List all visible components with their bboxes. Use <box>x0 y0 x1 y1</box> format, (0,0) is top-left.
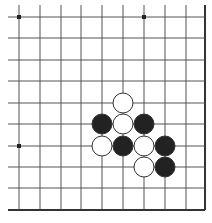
go-board <box>0 0 212 223</box>
white-stone[interactable] <box>113 93 133 113</box>
black-stone[interactable] <box>134 114 154 134</box>
stones <box>92 93 175 177</box>
black-stone[interactable] <box>155 136 175 156</box>
white-stone[interactable] <box>134 157 154 177</box>
white-stone[interactable] <box>92 136 112 156</box>
black-stone[interactable] <box>92 114 112 134</box>
board-grid <box>8 5 205 210</box>
star-point <box>17 144 21 148</box>
star-point <box>142 15 146 19</box>
white-stone[interactable] <box>134 136 154 156</box>
black-stone[interactable] <box>113 136 133 156</box>
white-stone[interactable] <box>113 114 133 134</box>
star-point <box>17 15 21 19</box>
black-stone[interactable] <box>155 157 175 177</box>
